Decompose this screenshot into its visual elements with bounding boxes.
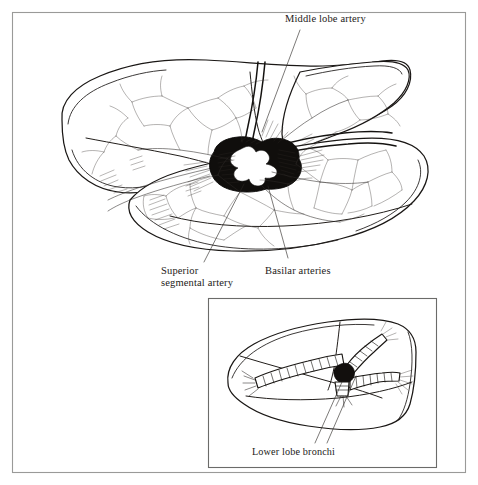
main-illustration: Middle lobe artery Superior segmental ar…	[62, 13, 428, 288]
figure-canvas: Middle lobe artery Superior segmental ar…	[0, 0, 478, 485]
posterior-lobe-outline	[282, 61, 409, 152]
inset-carina	[334, 363, 355, 383]
label-superior-segmental-artery-line1: Superior	[161, 265, 199, 276]
anatomical-figure: Middle lobe artery Superior segmental ar…	[0, 0, 478, 485]
label-basilar-arteries: Basilar arteries	[265, 265, 331, 276]
label-lower-lobe-bronchi: Lower lobe bronchi	[252, 446, 335, 457]
label-superior-segmental-artery-line2: segmental artery	[161, 277, 234, 288]
label-middle-lobe-artery: Middle lobe artery	[285, 13, 366, 24]
inset-panel: Lower lobe bronchi	[209, 299, 437, 468]
inset-stem-bronchus	[335, 382, 349, 396]
